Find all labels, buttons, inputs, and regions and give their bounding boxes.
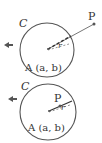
- radius-label: r: [58, 41, 63, 50]
- center-a: [47, 48, 49, 50]
- diagram-point-outside: C P r A (a, b): [4, 10, 96, 77]
- diagram-point-inside: C P r A (a, b): [8, 80, 76, 140]
- circle-label: C: [19, 17, 28, 30]
- center-label: A (a, b): [24, 62, 62, 73]
- arrow-left-icon: [4, 42, 13, 48]
- center-label: A (a, b): [27, 122, 65, 133]
- circle-point-diagrams: C P r A (a, b) C P r A (a, b): [0, 0, 102, 143]
- arrow-left-icon: [8, 96, 17, 102]
- point-label: P: [88, 10, 96, 23]
- circle-label: C: [21, 80, 30, 93]
- center-a: [48, 110, 50, 112]
